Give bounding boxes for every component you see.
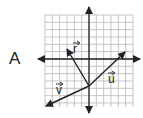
- coordinate-axes: [38, 7, 140, 113]
- vector-r: [67, 49, 89, 86]
- vector-label-r: r: [73, 42, 77, 56]
- vector-diagram: ruv: [0, 0, 143, 118]
